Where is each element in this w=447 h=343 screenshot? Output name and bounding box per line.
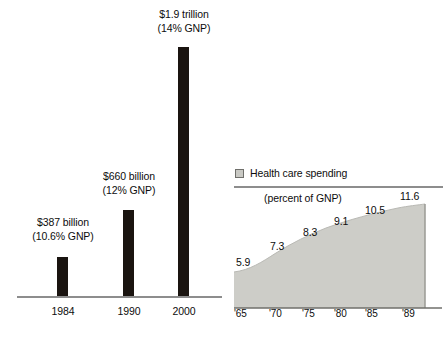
area-point-label-1989: 11.6 xyxy=(400,190,419,202)
area-tick-label-85: '85 xyxy=(365,308,378,319)
bar-share-label-2000: (14% GNP) xyxy=(124,22,244,36)
projected-spending-bar-chart: $387 billion (10.6% GNP) 1984 $660 billi… xyxy=(0,0,228,343)
area-point-label-1980: 9.1 xyxy=(334,215,348,227)
bar-chart-baseline-axis xyxy=(17,296,222,298)
bar-label-group-1984: $387 billion (10.6% GNP) xyxy=(3,216,123,243)
bar-amount-label-1984: $387 billion xyxy=(3,216,123,230)
bar-year-label-2000: 2000 xyxy=(144,305,224,317)
bar-amount-label-2000: $1.9 trillion xyxy=(124,8,244,22)
area-tick-label-65: '65 xyxy=(234,308,247,319)
bar-rect-2000 xyxy=(178,47,189,297)
area-tick-label-89: '89 xyxy=(402,308,415,319)
bar-rect-1984 xyxy=(57,257,68,297)
health-care-spending-figure: $387 billion (10.6% GNP) 1984 $660 billi… xyxy=(0,0,447,343)
area-point-label-1975: 8.3 xyxy=(303,226,317,238)
health-care-share-area-chart: Health care spending (percent of GNP) 5.… xyxy=(228,160,447,343)
bar-amount-label-1990: $660 billion xyxy=(69,170,189,184)
area-tick-label-70: '70 xyxy=(269,308,282,319)
area-point-label-1970: 7.3 xyxy=(270,240,284,252)
area-fill-path xyxy=(234,204,425,308)
bar-label-group-2000: $1.9 trillion (14% GNP) xyxy=(124,8,244,35)
bar-share-label-1984: (10.6% GNP) xyxy=(3,230,123,244)
area-tick-label-80: '80 xyxy=(334,308,347,319)
bar-share-label-1990: (12% GNP) xyxy=(69,184,189,198)
bar-label-group-1990: $660 billion (12% GNP) xyxy=(69,170,189,197)
bar-rect-1990 xyxy=(123,210,134,297)
area-tick-label-75: '75 xyxy=(302,308,315,319)
area-point-label-1965: 5.9 xyxy=(236,256,250,268)
area-point-label-1985: 10.5 xyxy=(365,204,385,216)
